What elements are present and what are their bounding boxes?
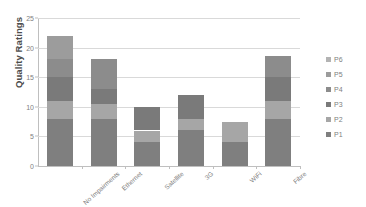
bar-group[interactable] [134,107,160,166]
legend-item-p6[interactable]: P6 [326,52,366,67]
legend-item-p3[interactable]: P3 [326,97,366,112]
bar-segment-p2[interactable] [91,104,117,119]
bar-segment-p3[interactable] [265,77,291,101]
legend-swatch-icon [326,117,331,122]
bar-segment-p3[interactable] [134,107,160,131]
legend-swatch-icon [326,102,331,107]
y-axis-title: Quality Ratings [13,0,24,113]
bar-segment-p1[interactable] [134,142,160,166]
bar-segment-p1[interactable] [91,119,117,166]
bar-group[interactable] [47,36,73,166]
bar-segment-p3[interactable] [47,77,73,101]
x-axis-tick-mark [82,166,83,169]
x-axis-label: Satellite [163,170,185,191]
x-axis-label: Fibre [292,170,308,185]
y-axis-tick-label: 0 [30,163,34,170]
bar-segment-p2[interactable] [222,122,248,143]
bar-group[interactable] [265,56,291,166]
legend-swatch-icon [326,72,331,77]
legend-label: P3 [334,101,343,108]
bar-segment-p4[interactable] [91,59,117,89]
legend: P6P5P4P3P2P1 [326,52,366,142]
plot-area: 0510152025 [38,18,300,166]
y-axis-tick-label: 15 [26,74,34,81]
x-axis-labels: No ImpairmentsEthernetSatellite3GWiFiFib… [38,166,300,207]
legend-item-p1[interactable]: P1 [326,127,366,142]
bar-segment-p1[interactable] [265,119,291,166]
bar-segment-p3[interactable] [91,89,117,104]
x-axis-tick-mark [213,166,214,169]
legend-swatch-icon [326,132,331,137]
legend-item-p2[interactable]: P2 [326,112,366,127]
legend-item-p5[interactable]: P5 [326,67,366,82]
bar-segment-p1[interactable] [178,130,204,166]
x-axis-label: 3G [203,170,214,181]
y-axis-tick-label: 10 [26,103,34,110]
bar-segment-p4[interactable] [47,59,73,77]
legend-label: P5 [334,71,343,78]
y-axis-tick-label: 25 [26,15,34,22]
bar-segment-p5[interactable] [47,36,73,60]
bar-segment-p1[interactable] [222,142,248,166]
bar-segment-p4[interactable] [265,56,291,77]
y-axis-tick-label: 20 [26,44,34,51]
x-axis-tick-mark [125,166,126,169]
legend-label: P2 [334,116,343,123]
bar-group[interactable] [178,95,204,166]
x-axis-label: WiFi [248,170,262,184]
legend-label: P4 [334,86,343,93]
y-axis-tick-label: 5 [30,133,34,140]
legend-item-p4[interactable]: P4 [326,82,366,97]
x-axis-label: No Impairments [82,170,121,206]
bar-group[interactable] [91,59,117,166]
bar-segment-p2[interactable] [265,101,291,119]
bar-segment-p3[interactable] [178,95,204,119]
bars-layer [38,18,300,166]
x-axis-label: Ethernet [120,170,143,192]
x-axis-tick-mark [300,166,301,169]
legend-swatch-icon [326,57,331,62]
legend-label: P1 [334,131,343,138]
x-axis-tick-mark [169,166,170,169]
legend-label: P6 [334,56,343,63]
legend-swatch-icon [326,87,331,92]
x-axis-tick-mark [256,166,257,169]
bar-segment-p2[interactable] [47,101,73,119]
bar-segment-p1[interactable] [47,119,73,166]
quality-ratings-stacked-bar-chart: Quality Ratings 0510152025 No Impairment… [0,0,366,207]
bar-segment-p2[interactable] [134,131,160,143]
bar-group[interactable] [222,122,248,166]
bar-segment-p2[interactable] [178,119,204,131]
